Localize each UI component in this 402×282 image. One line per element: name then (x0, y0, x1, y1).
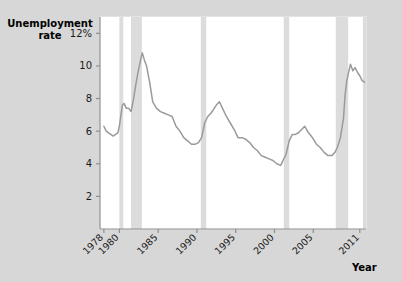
recession-2001 (284, 17, 289, 229)
y-tick-label-8: 8 (86, 93, 92, 104)
data-line-unemployment-rate (104, 53, 365, 166)
chart-svg: 24681012% 197819801985199019952000200520… (0, 0, 402, 282)
y-axis-title-line1: Unemployment (4, 18, 96, 30)
data-line-group (104, 53, 365, 166)
x-tick-label-1990: 1990 (173, 232, 198, 257)
x-tick-label-1985: 1985 (135, 232, 160, 257)
x-tick-labels-group: 19781980198519901995200020052011 (80, 232, 361, 257)
unemployment-rate-chart-figure: 24681012% 197819801985199019952000200520… (0, 0, 402, 282)
x-tick-label-2005: 2005 (290, 232, 315, 257)
recession-2011-edge (363, 17, 366, 229)
y-axis-title: Unemployment rate (4, 18, 96, 42)
y-tick-label-6: 6 (86, 126, 92, 137)
recession-2007-2009 (336, 17, 348, 229)
y-axis-title-line2: rate (4, 30, 96, 42)
y-tick-label-10: 10 (79, 60, 92, 71)
x-axis-title: Year (352, 262, 377, 273)
recession-1981-1982 (131, 17, 142, 229)
y-tick-labels-group: 24681012% (70, 28, 92, 202)
x-tick-label-2000: 2000 (251, 232, 276, 257)
x-tick-label-2011: 2011 (336, 232, 361, 257)
recession-bands-group (119, 17, 366, 229)
y-tick-label-4: 4 (86, 158, 92, 169)
x-tick-label-1995: 1995 (212, 232, 237, 257)
y-tick-label-2: 2 (86, 191, 92, 202)
